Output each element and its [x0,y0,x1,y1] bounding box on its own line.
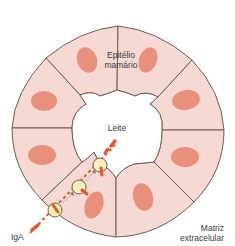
label-epithelium: Epitélio mamário [100,50,142,70]
nucleus [31,91,57,111]
label-iga: IgA [11,232,24,242]
nucleus [28,145,56,165]
iga-entry [32,225,38,230]
label-extracellular-matrix: Matriz extracelular [174,223,224,243]
label-lumen: Leite [105,123,129,133]
nucleus [171,147,199,167]
